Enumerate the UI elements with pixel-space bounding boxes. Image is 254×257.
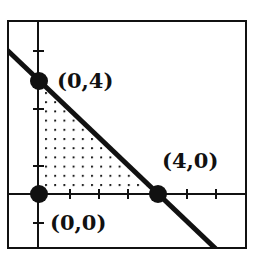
vertex-label-4-0: (4,0) bbox=[162, 148, 218, 173]
vertex-label-0-0: (0,0) bbox=[50, 210, 106, 235]
vertex-point-0-4 bbox=[30, 72, 48, 90]
graph: (0,4) (4,0) (0,0) bbox=[0, 0, 254, 257]
vertex-point-0-0 bbox=[30, 185, 48, 203]
vertex-label-0-4: (0,4) bbox=[57, 68, 113, 93]
vertex-point-4-0 bbox=[149, 185, 167, 203]
